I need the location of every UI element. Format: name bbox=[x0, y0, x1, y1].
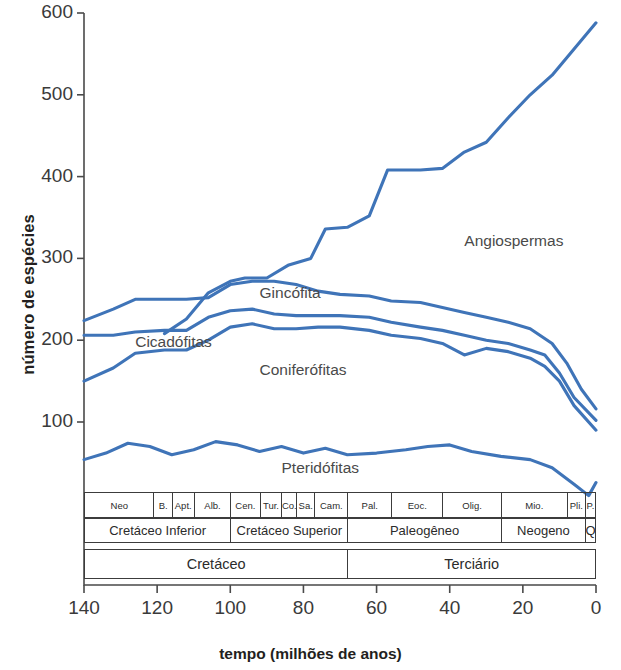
y-tick-label: 600 bbox=[13, 1, 73, 23]
series-label-gincófita: Gincófita bbox=[260, 284, 321, 302]
series-label-pteridófitas: Pteridófitas bbox=[281, 459, 359, 477]
y-tick-label: 100 bbox=[13, 410, 73, 432]
strat-cell-epochs: Tur. bbox=[260, 492, 282, 518]
series-label-cicadófitas: Cicadófitas bbox=[135, 333, 212, 351]
strat-cell-series: Cretáceo Inferior bbox=[84, 518, 230, 543]
strat-cell-epochs: B. bbox=[153, 492, 171, 518]
series-label-coniferófitas: Coniferófitas bbox=[260, 361, 347, 379]
strat-cell-series: Neogeno bbox=[501, 518, 585, 543]
strat-cell-epochs: Pli. bbox=[567, 492, 585, 518]
x-tick-label: 140 bbox=[54, 597, 114, 619]
strat-cell-epochs: Co. bbox=[281, 492, 296, 518]
strat-cell-epochs: Cam. bbox=[314, 492, 347, 518]
strat-cell-series: Paleogêneo bbox=[347, 518, 501, 543]
strat-cell-epochs: P. bbox=[585, 492, 596, 518]
strat-cell-epochs: Cen. bbox=[230, 492, 259, 518]
x-tick-label: 20 bbox=[493, 597, 553, 619]
strat-cell-epochs: Pal. bbox=[347, 492, 391, 518]
x-axis-title: tempo (milhões de anos) bbox=[0, 645, 621, 663]
x-tick-label: 40 bbox=[420, 597, 480, 619]
strat-cell-epochs: Neo bbox=[84, 492, 153, 518]
x-tick-label: 120 bbox=[127, 597, 187, 619]
x-tick-label: 80 bbox=[273, 597, 333, 619]
x-tick-label: 100 bbox=[200, 597, 260, 619]
series-label-angiospermas: Angiospermas bbox=[464, 232, 563, 250]
strat-cell-epochs: Eoc. bbox=[391, 492, 442, 518]
strat-cell-epochs: Apt. bbox=[172, 492, 194, 518]
y-tick-label: 300 bbox=[13, 246, 73, 268]
chart-figure: número de espécies tempo (milhões de ano… bbox=[0, 0, 621, 670]
series-curves bbox=[84, 23, 596, 496]
strat-cell-periods: Cretáceo bbox=[84, 549, 347, 579]
strat-cell-periods: Terciário bbox=[347, 549, 596, 579]
strat-cell-epochs: Alb. bbox=[194, 492, 231, 518]
strat-cell-epochs: Mio. bbox=[501, 492, 567, 518]
y-tick-label: 500 bbox=[13, 83, 73, 105]
y-tick-label: 400 bbox=[13, 165, 73, 187]
strat-cell-epochs: Sa. bbox=[296, 492, 314, 518]
x-tick-label: 60 bbox=[347, 597, 407, 619]
strat-cell-epochs: Olig. bbox=[442, 492, 501, 518]
strat-cell-series: Cretáceo Superior bbox=[230, 518, 347, 543]
y-tick-label: 200 bbox=[13, 328, 73, 350]
y-axis-title: número de espécies bbox=[19, 175, 38, 415]
strat-cell-series: Q bbox=[585, 518, 596, 543]
x-tick-label: 0 bbox=[566, 597, 621, 619]
